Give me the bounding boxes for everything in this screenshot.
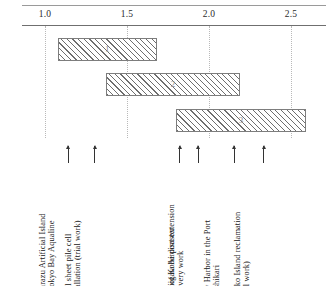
annotation-leader-arrow	[234, 146, 235, 163]
annotation-leader-arrow	[68, 146, 69, 163]
x-tick-label: 2.5	[285, 9, 297, 19]
bar-number-label: 3	[239, 116, 244, 125]
x-tick-label: 1.0	[39, 9, 51, 19]
annotation-leader-arrow	[179, 146, 180, 163]
range-bar: 1	[58, 38, 156, 61]
axis-bottom-rule	[22, 25, 326, 26]
axis-top-rule	[22, 5, 326, 6]
gantt-range-chart: 1.01.52.02.5 123 Kisarazu Artificial Isl…	[0, 0, 332, 286]
range-bar: 2	[106, 73, 240, 96]
annotation-leader-arrow	[94, 146, 95, 163]
annotation-leader-arrow	[263, 146, 264, 163]
range-bar: 3	[176, 109, 306, 132]
annotation-leader-arrow	[198, 146, 199, 163]
gridline	[45, 26, 46, 138]
x-tick-label: 1.5	[121, 9, 133, 19]
bar-number-label: 1	[105, 45, 110, 54]
x-tick-label: 2.0	[203, 9, 215, 19]
bar-number-label: 2	[171, 80, 176, 89]
